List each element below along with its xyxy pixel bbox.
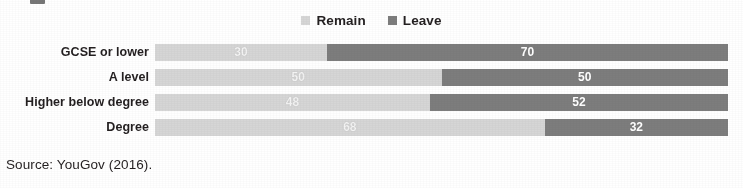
bar-value-leave: 70 [521, 46, 534, 58]
legend-item-remain[interactable]: Remain [301, 14, 365, 28]
bar-value-leave: 32 [630, 121, 643, 133]
legend-item-leave[interactable]: Leave [388, 14, 442, 28]
legend-label-leave: Leave [403, 14, 442, 28]
bar-row: A level 50 50 [0, 68, 743, 86]
bar-segment-remain[interactable]: 68 [155, 119, 545, 136]
bar-segment-remain[interactable]: 50 [155, 69, 442, 86]
stacked-bar-higher-below-degree: 48 52 [155, 94, 728, 111]
bar-value-remain: 68 [343, 121, 356, 133]
bar-segment-leave[interactable]: 70 [327, 44, 728, 61]
category-label-higher-below-degree: Higher below degree [0, 95, 155, 109]
bar-value-remain: 30 [234, 46, 247, 58]
bar-segment-leave[interactable]: 32 [545, 119, 728, 136]
chart-legend: Remain Leave [0, 14, 743, 28]
bar-row: Higher below degree 48 52 [0, 93, 743, 111]
chart-plot-area: GCSE or lower 30 70 A level 50 50 [0, 41, 743, 145]
legend-label-remain: Remain [316, 14, 365, 28]
figure-container: Remain Leave GCSE or lower 30 70 A level [0, 0, 743, 188]
bar-value-leave: 50 [578, 71, 591, 83]
category-label-a-level: A level [0, 70, 155, 84]
bar-value-leave: 52 [572, 96, 585, 108]
bar-segment-leave[interactable]: 52 [430, 94, 728, 111]
legend-swatch-icon [388, 16, 397, 25]
stacked-bar-gcse-or-lower: 30 70 [155, 44, 728, 61]
stacked-bar-a-level: 50 50 [155, 69, 728, 86]
bar-value-remain: 50 [292, 71, 305, 83]
bar-value-remain: 48 [286, 96, 299, 108]
bar-row: Degree 68 32 [0, 118, 743, 136]
category-label-degree: Degree [0, 120, 155, 134]
clipped-title-fragment [30, 0, 45, 4]
bar-segment-remain[interactable]: 48 [155, 94, 430, 111]
category-label-gcse-or-lower: GCSE or lower [0, 45, 155, 59]
stacked-bar-degree: 68 32 [155, 119, 728, 136]
source-note: Source: YouGov (2016). [6, 157, 152, 172]
bar-row: GCSE or lower 30 70 [0, 43, 743, 61]
bar-segment-leave[interactable]: 50 [442, 69, 729, 86]
legend-swatch-icon [301, 16, 310, 25]
bar-segment-remain[interactable]: 30 [155, 44, 327, 61]
